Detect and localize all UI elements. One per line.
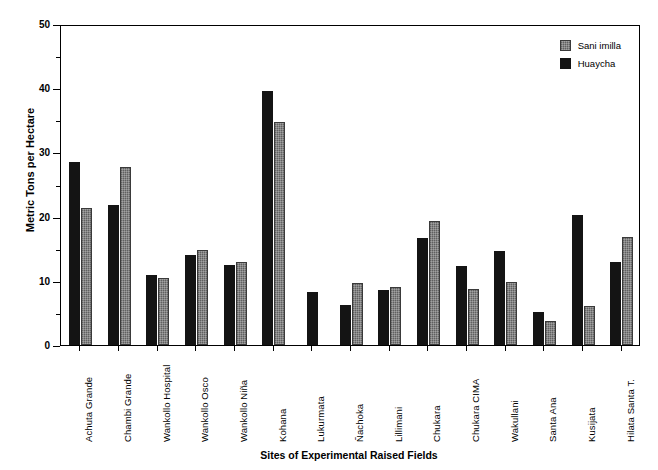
bar-sani-imilla-4 — [236, 262, 247, 345]
x-tick-label-14: Hilata Santa T. — [625, 379, 636, 442]
x-tick-label-2: Wankollo Hospital — [161, 365, 172, 442]
y-tick-mark-10 — [53, 282, 60, 283]
legend-swatch-sani-icon — [560, 40, 571, 51]
x-tick-mark-7 — [350, 346, 351, 351]
bar-huaycha-10 — [456, 266, 467, 345]
legend-label-huaycha: Huaycha — [578, 58, 616, 69]
legend-item-huaycha: Huaycha — [560, 58, 621, 69]
x-tick-label-0: Achuta Grande — [83, 377, 94, 442]
x-tick-mark-5 — [273, 346, 274, 351]
bar-sani-imilla-0 — [81, 208, 92, 345]
x-tick-mark-14 — [621, 346, 622, 351]
legend-label-sani: Sani imilla — [578, 40, 621, 51]
bar-huaycha-9 — [417, 238, 428, 345]
y-tick-mark-0 — [53, 346, 60, 347]
x-tick-label-13: Kusijata — [586, 407, 597, 442]
bar-sani-imilla-12 — [545, 321, 556, 345]
bar-sani-imilla-5 — [274, 122, 285, 345]
y-minor-tick-45 — [56, 57, 60, 58]
bar-sani-imilla-3 — [197, 250, 208, 345]
bar-sani-imilla-10 — [468, 289, 479, 345]
legend-item-sani: Sani imilla — [560, 40, 621, 51]
y-tick-label-30: 30 — [16, 147, 50, 158]
bar-sani-imilla-1 — [120, 167, 131, 345]
x-tick-mark-8 — [389, 346, 390, 351]
x-tick-label-7: Ñachoka — [354, 404, 365, 442]
y-tick-mark-50 — [53, 25, 60, 26]
legend-swatch-huaycha-icon — [560, 58, 571, 69]
bar-huaycha-12 — [533, 312, 544, 345]
x-tick-label-11: Wakullani — [509, 400, 520, 442]
bar-huaycha-4 — [224, 265, 235, 345]
y-tick-label-50: 50 — [16, 19, 50, 30]
x-tick-mark-2 — [157, 346, 158, 351]
y-tick-label-0: 0 — [16, 340, 50, 351]
bar-huaycha-8 — [378, 290, 389, 345]
y-tick-label-10: 10 — [16, 276, 50, 287]
y-tick-mark-40 — [53, 89, 60, 90]
bar-sani-imilla-7 — [352, 283, 363, 345]
x-tick-mark-1 — [118, 346, 119, 351]
y-minor-tick-25 — [56, 186, 60, 187]
bar-sani-imilla-14 — [622, 237, 633, 345]
x-tick-mark-3 — [195, 346, 196, 351]
x-tick-mark-0 — [79, 346, 80, 351]
bar-huaycha-14 — [610, 262, 621, 345]
x-tick-label-9: Chukara — [431, 405, 442, 442]
chart-figure: Metric Tons per Hectare 01020304050 Sani… — [0, 0, 658, 470]
x-tick-label-1: Chambi Grande — [122, 374, 133, 442]
x-tick-mark-11 — [505, 346, 506, 351]
x-axis-title: Sites of Experimental Raised Fields — [0, 449, 658, 461]
x-tick-mark-12 — [543, 346, 544, 351]
bar-huaycha-1 — [108, 205, 119, 345]
bar-huaycha-6 — [307, 292, 318, 345]
bar-huaycha-0 — [69, 162, 80, 345]
x-tick-label-4: Wankollo Niña — [238, 380, 249, 442]
x-tick-label-5: Kohana — [277, 409, 288, 442]
x-tick-label-10: Chukara CIMA — [470, 379, 481, 443]
x-tick-label-12: Santa Ana — [547, 397, 558, 442]
x-tick-label-8: Lillimani — [393, 407, 404, 442]
y-axis-title-wrap: Metric Tons per Hectare — [14, 0, 32, 346]
x-tick-label-3: Wankollo Osco — [199, 377, 210, 442]
bar-sani-imilla-13 — [584, 306, 595, 345]
y-tick-mark-20 — [53, 218, 60, 219]
bar-sani-imilla-2 — [158, 278, 169, 345]
bar-sani-imilla-9 — [429, 221, 440, 345]
bar-huaycha-5 — [262, 91, 273, 345]
x-tick-mark-10 — [466, 346, 467, 351]
y-tick-label-40: 40 — [16, 83, 50, 94]
bar-huaycha-2 — [146, 275, 157, 345]
y-tick-label-20: 20 — [16, 212, 50, 223]
bar-sani-imilla-8 — [390, 287, 401, 345]
y-minor-tick-35 — [56, 121, 60, 122]
bar-huaycha-11 — [494, 251, 505, 345]
x-tick-label-6: Lukurmata — [315, 396, 326, 442]
x-tick-mark-4 — [234, 346, 235, 351]
x-tick-mark-13 — [582, 346, 583, 351]
bar-huaycha-3 — [185, 255, 196, 345]
bar-huaycha-13 — [572, 215, 583, 345]
legend: Sani imillaHuaycha — [560, 40, 621, 76]
bar-sani-imilla-11 — [506, 282, 517, 345]
x-tick-mark-6 — [311, 346, 312, 351]
bars-layer — [61, 26, 639, 345]
y-tick-mark-30 — [53, 153, 60, 154]
y-minor-tick-15 — [56, 250, 60, 251]
plot-area: Sani imillaHuaycha — [60, 25, 640, 346]
bar-huaycha-7 — [340, 305, 351, 345]
y-minor-tick-5 — [56, 314, 60, 315]
x-tick-mark-9 — [427, 346, 428, 351]
